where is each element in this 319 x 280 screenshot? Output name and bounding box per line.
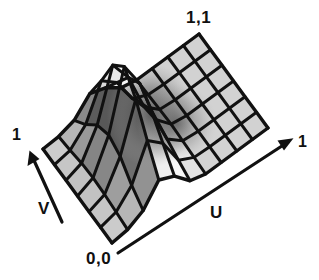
u-axis-name-label: U xyxy=(210,204,222,221)
figure-canvas: 1,1 0,0 1 1 V U xyxy=(0,0,319,280)
v-axis-name-label: V xyxy=(38,200,49,217)
corner-label-origin: 0,0 xyxy=(86,250,111,267)
corner-label-far: 1,1 xyxy=(186,9,211,26)
surface-plot xyxy=(0,0,319,280)
u-axis-max-label: 1 xyxy=(298,134,307,150)
v-axis-max-label: 1 xyxy=(12,127,21,143)
